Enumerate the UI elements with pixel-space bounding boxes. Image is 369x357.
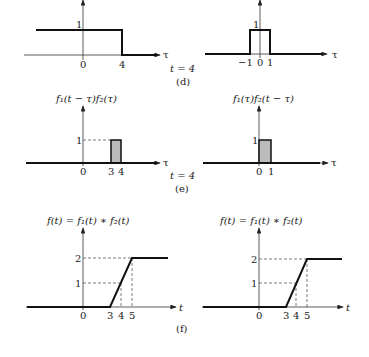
panel-e-right: f₁(τ)f₂(t − τ) 1 0 1 τ: [203, 93, 337, 177]
convolution-result: [203, 259, 342, 307]
y-tick-1: 1: [76, 135, 82, 146]
shaded-overlap: [111, 140, 121, 163]
x-tick-1: 1: [268, 166, 274, 177]
x-tick-4: 4: [118, 310, 124, 321]
time-label-e: t = 4: [170, 170, 195, 181]
rect-signal: [36, 30, 157, 55]
x-tick-3: 3: [107, 310, 113, 321]
y-tick-2: 2: [251, 254, 257, 265]
y-tick-1: 1: [251, 278, 257, 289]
pulse-signal: [205, 30, 322, 54]
panel-title: f₁(t − τ)f₂(τ): [55, 93, 117, 104]
y-tick-2: 2: [75, 253, 81, 264]
x-tick-0: 0: [256, 310, 262, 321]
x-tick-0: 0: [257, 57, 263, 68]
x-tick-4: 4: [118, 166, 124, 177]
x-tick-4: 4: [119, 59, 125, 70]
x-tick-1: 1: [267, 57, 273, 68]
t-label: t: [346, 302, 351, 313]
panel-f-left: f(t) = f₁(t) ∗ f₂(t) 2 1 0 3 4 5 t: [26, 215, 184, 321]
x-tick-5: 5: [304, 310, 310, 321]
panel-d-right: 1 −1 0 1 τ: [205, 0, 338, 68]
y-tick-1: 1: [75, 278, 81, 289]
caption-e: (e): [175, 183, 189, 194]
panel-d-left: 1 0 4 τ: [24, 0, 169, 70]
y-tick-1: 1: [76, 19, 82, 30]
panel-title: f(t) = f₁(t) ∗ f₂(t): [219, 215, 303, 226]
caption-d: (d): [176, 76, 190, 87]
tau-label: τ: [163, 157, 169, 168]
x-tick-0: 0: [80, 310, 86, 321]
caption-f: (f): [176, 323, 188, 334]
x-tick-3: 3: [108, 166, 114, 177]
convolution-diagram: 1 0 4 τ 1 −1 0 1 τ t = 4 (d) f₁(t − τ)f₂…: [0, 0, 369, 357]
x-tick-0: 0: [80, 59, 86, 70]
tau-label: τ: [331, 157, 337, 168]
x-tick-3: 3: [283, 310, 289, 321]
y-tick-1: 1: [253, 19, 259, 30]
x-tick-0: 0: [256, 166, 262, 177]
shaded-overlap: [259, 140, 271, 163]
t-label: t: [179, 302, 184, 313]
convolution-result: [27, 258, 168, 307]
x-tick-4: 4: [293, 310, 299, 321]
panel-title: f₁(τ)f₂(t − τ): [232, 93, 294, 104]
panel-title: f(t) = f₁(t) ∗ f₂(t): [46, 215, 130, 226]
tau-label: τ: [163, 49, 169, 60]
x-tick-neg1: −1: [238, 57, 253, 68]
x-tick-0: 0: [80, 166, 86, 177]
y-tick-1: 1: [252, 135, 258, 146]
tau-label: τ: [332, 49, 338, 60]
panel-e-left: f₁(t − τ)f₂(τ) 1 0 3 4 τ: [26, 93, 169, 177]
panel-f-right: f(t) = f₁(t) ∗ f₂(t) 2 1 0 3 4 5 t: [202, 215, 351, 321]
time-label-d: t = 4: [170, 63, 195, 74]
x-tick-5: 5: [129, 310, 135, 321]
